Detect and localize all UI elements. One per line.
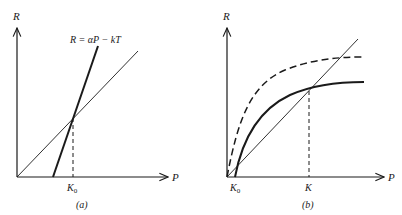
k-tick-label: K — [304, 182, 313, 193]
dashed-saturating-curve — [227, 57, 364, 177]
steep-line — [53, 46, 98, 177]
k0-tick-label: K0 — [229, 182, 241, 195]
panel-a: R P R = αP − kT K0 (a) — [12, 10, 179, 211]
y-axis-label: R — [222, 10, 230, 22]
y-axis-label: R — [12, 10, 20, 22]
x-axis-label: P — [171, 171, 179, 183]
panel-a-caption: (a) — [76, 199, 88, 211]
panel-b: R P K0 K (b) — [222, 10, 395, 211]
solid-saturating-curve — [235, 82, 364, 177]
x-axis-label: P — [387, 171, 395, 183]
reference-line — [17, 51, 138, 177]
figure-canvas: R P R = αP − kT K0 (a) R P — [0, 0, 402, 215]
panel-b-caption: (b) — [302, 199, 314, 211]
k0-tick-label: K0 — [66, 182, 78, 195]
equation-label: R = αP − kT — [69, 34, 122, 45]
